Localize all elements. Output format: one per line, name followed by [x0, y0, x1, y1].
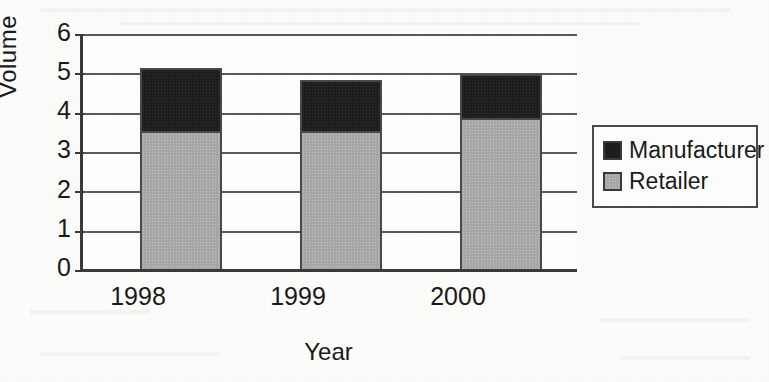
bar-segment-manufacturer-1999: [300, 80, 382, 131]
y-tick-label-4: 4: [37, 98, 71, 123]
stacked-bar-chart: Volume 6 5 4 3 2 1 0: [0, 0, 769, 382]
bar-group-1999: [300, 80, 382, 269]
y-tick-label-6: 6: [37, 20, 71, 45]
legend-item-manufacturer: Manufacturer: [603, 135, 747, 166]
tick-6: [75, 34, 84, 36]
y-axis-title: Volume: [0, 15, 22, 98]
y-tick-label-5: 5: [37, 59, 71, 84]
y-tick-label-2: 2: [37, 177, 71, 202]
bar-segment-manufacturer-1998: [140, 68, 222, 131]
legend-label-retailer: Retailer: [629, 170, 708, 193]
y-tick-label-0: 0: [37, 255, 71, 280]
legend-label-manufacturer: Manufacturer: [629, 139, 765, 162]
bar-segment-retailer-1999: [300, 131, 382, 269]
x-tick-label-1998: 1998: [83, 282, 193, 311]
tick-2: [75, 191, 84, 193]
bar-segment-manufacturer-2000: [460, 74, 542, 117]
legend-swatch-manufacturer-icon: [603, 141, 622, 160]
tick-3: [75, 152, 84, 154]
plot-area: 6 5 4 3 2 1 0: [80, 36, 577, 272]
bar-segment-retailer-2000: [460, 118, 542, 269]
y-tick-label-3: 3: [37, 137, 71, 162]
bar-group-2000: [460, 74, 542, 269]
tick-5: [75, 73, 84, 75]
gridline-6: [83, 34, 577, 36]
bar-segment-retailer-1998: [140, 131, 222, 269]
chart-legend: Manufacturer Retailer: [592, 125, 758, 208]
x-tick-label-1999: 1999: [243, 282, 353, 311]
bar-group-1998: [140, 68, 222, 269]
x-tick-label-2000: 2000: [403, 282, 513, 311]
legend-swatch-retailer-icon: [603, 172, 622, 191]
x-axis-title: Year: [80, 338, 577, 366]
y-tick-label-1: 1: [37, 216, 71, 241]
tick-4: [75, 113, 84, 115]
legend-item-retailer: Retailer: [603, 166, 747, 197]
tick-0: [75, 270, 84, 272]
tick-1: [75, 231, 84, 233]
